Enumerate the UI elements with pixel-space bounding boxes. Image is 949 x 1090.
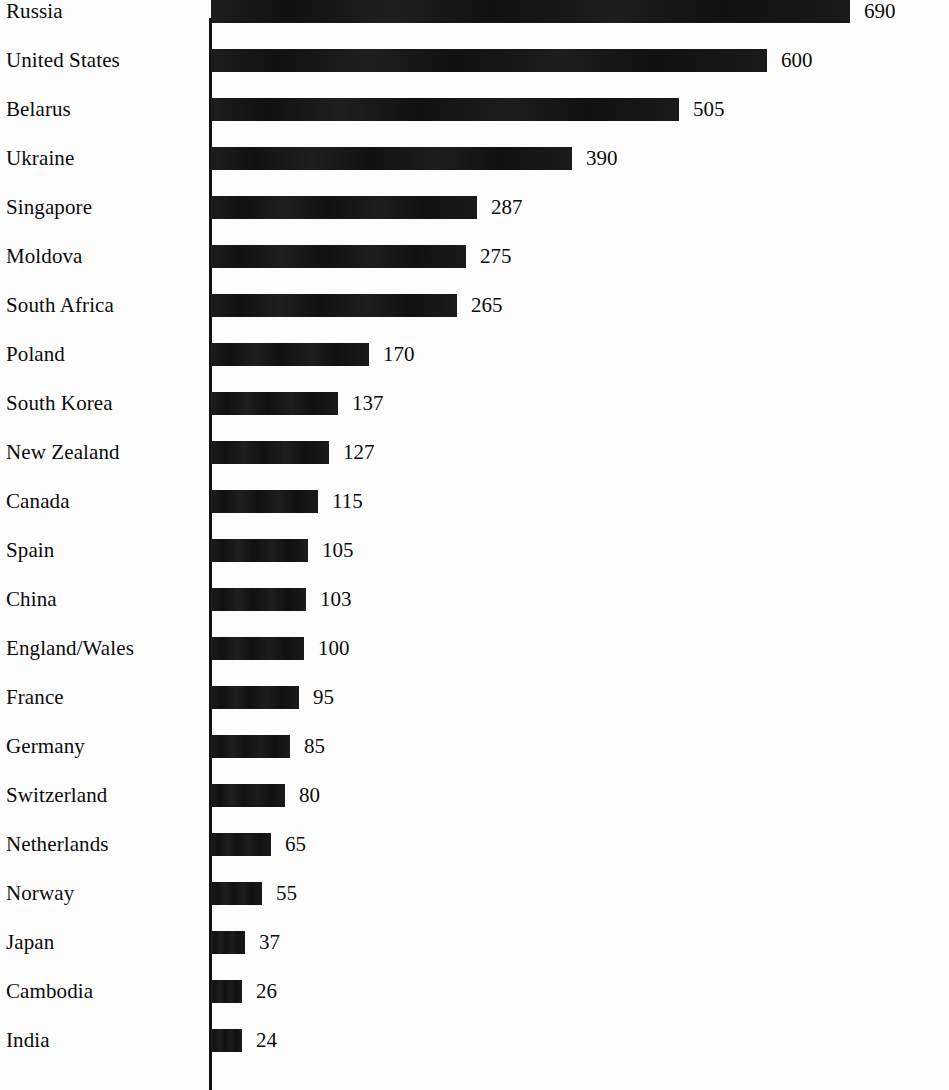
bar-fill (211, 833, 271, 856)
bar-row: Spain105 (0, 526, 949, 575)
bar-value-label: 85 (304, 722, 325, 771)
bar-value-label: 26 (256, 967, 277, 1016)
bar-value-label: 275 (480, 232, 512, 281)
bar-row: India24 (0, 1016, 949, 1065)
bar-value-label: 65 (285, 820, 306, 869)
category-label: South Korea (6, 379, 113, 428)
bar (211, 931, 245, 954)
category-label: Moldova (6, 232, 83, 281)
bar-fill (211, 980, 242, 1003)
bar-fill (211, 441, 329, 464)
category-label: Switzerland (6, 771, 107, 820)
bar (211, 196, 477, 219)
bar-row: Netherlands65 (0, 820, 949, 869)
bar-value-label: 24 (256, 1016, 277, 1065)
bar (211, 735, 290, 758)
bar-value-label: 105 (322, 526, 354, 575)
bar-fill (211, 490, 318, 513)
bar-row: China103 (0, 575, 949, 624)
bar-fill (211, 588, 306, 611)
category-label: Poland (6, 330, 65, 379)
bar (211, 0, 850, 23)
bar-value-label: 95 (313, 673, 334, 722)
bar-row: England/Wales100 (0, 624, 949, 673)
bar-fill (211, 245, 466, 268)
bar (211, 686, 299, 709)
bar (211, 490, 318, 513)
bar-value-label: 600 (781, 36, 813, 85)
bar-fill (211, 735, 290, 758)
bar (211, 588, 306, 611)
bar-row: Russia690 (0, 0, 949, 36)
bar-row: South Africa265 (0, 281, 949, 330)
bar-row: Ukraine390 (0, 134, 949, 183)
bar (211, 147, 572, 170)
bar-row: Belarus505 (0, 85, 949, 134)
category-label: South Africa (6, 281, 114, 330)
bar-row: United States600 (0, 36, 949, 85)
category-label: Japan (6, 918, 54, 967)
horizontal-bar-chart: Russia690United States600Belarus505Ukrai… (0, 0, 949, 1090)
bar-fill (211, 539, 308, 562)
bar-row: Poland170 (0, 330, 949, 379)
bar (211, 441, 329, 464)
bar-row: South Korea137 (0, 379, 949, 428)
category-label: Belarus (6, 85, 71, 134)
category-label: China (6, 575, 57, 624)
category-label: Russia (6, 0, 63, 36)
bar-fill (211, 147, 572, 170)
bar-row: New Zealand127 (0, 428, 949, 477)
bar (211, 392, 338, 415)
bar (211, 343, 369, 366)
bar-value-label: 170 (383, 330, 415, 379)
bar-fill (211, 686, 299, 709)
bar (211, 98, 679, 121)
bar-value-label: 690 (864, 0, 896, 36)
category-label: Canada (6, 477, 70, 526)
bar (211, 539, 308, 562)
bar-row: Singapore287 (0, 183, 949, 232)
bar (211, 980, 242, 1003)
category-label: Cambodia (6, 967, 93, 1016)
category-label: England/Wales (6, 624, 134, 673)
bar-fill (211, 98, 679, 121)
bar-fill (211, 882, 262, 905)
bar (211, 637, 304, 660)
bar (211, 1029, 242, 1052)
bar-row: Cambodia26 (0, 967, 949, 1016)
bar (211, 833, 271, 856)
category-label: Spain (6, 526, 54, 575)
bar-value-label: 287 (491, 183, 523, 232)
category-label: Ukraine (6, 134, 74, 183)
bar-row: Germany85 (0, 722, 949, 771)
bar-value-label: 265 (471, 281, 503, 330)
bar-value-label: 37 (259, 918, 280, 967)
bar-fill (211, 294, 457, 317)
bar-fill (211, 931, 245, 954)
category-label: India (6, 1016, 50, 1065)
bar-value-label: 127 (343, 428, 375, 477)
bar-fill (211, 196, 477, 219)
bar-value-label: 115 (332, 477, 363, 526)
bar-value-label: 390 (586, 134, 618, 183)
bar (211, 294, 457, 317)
bar-row: Norway55 (0, 869, 949, 918)
bar-fill (211, 0, 850, 23)
category-label: Singapore (6, 183, 92, 232)
bar (211, 49, 767, 72)
category-label: New Zealand (6, 428, 120, 477)
bar-row: Canada115 (0, 477, 949, 526)
bar-value-label: 80 (299, 771, 320, 820)
bar-value-label: 55 (276, 869, 297, 918)
bar-fill (211, 343, 369, 366)
category-label: Netherlands (6, 820, 109, 869)
bar (211, 882, 262, 905)
bar (211, 784, 285, 807)
bar-value-label: 100 (318, 624, 350, 673)
bar-value-label: 505 (693, 85, 725, 134)
bar-row: Switzerland80 (0, 771, 949, 820)
bar-row: Moldova275 (0, 232, 949, 281)
bar-fill (211, 49, 767, 72)
bar-fill (211, 392, 338, 415)
bar-row: Japan37 (0, 918, 949, 967)
